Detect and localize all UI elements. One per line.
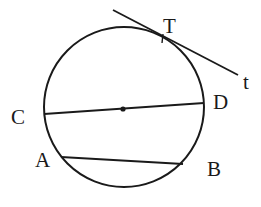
circle-geometry-diagram: T t C D A B xyxy=(0,0,261,207)
label-c: C xyxy=(11,105,25,129)
label-tangent-t: t xyxy=(243,70,249,94)
label-t-point: T xyxy=(163,14,176,38)
label-b: B xyxy=(207,157,221,181)
label-d: D xyxy=(213,90,228,114)
label-a: A xyxy=(35,148,51,172)
center-point xyxy=(120,106,125,111)
chord-ab xyxy=(61,157,183,164)
